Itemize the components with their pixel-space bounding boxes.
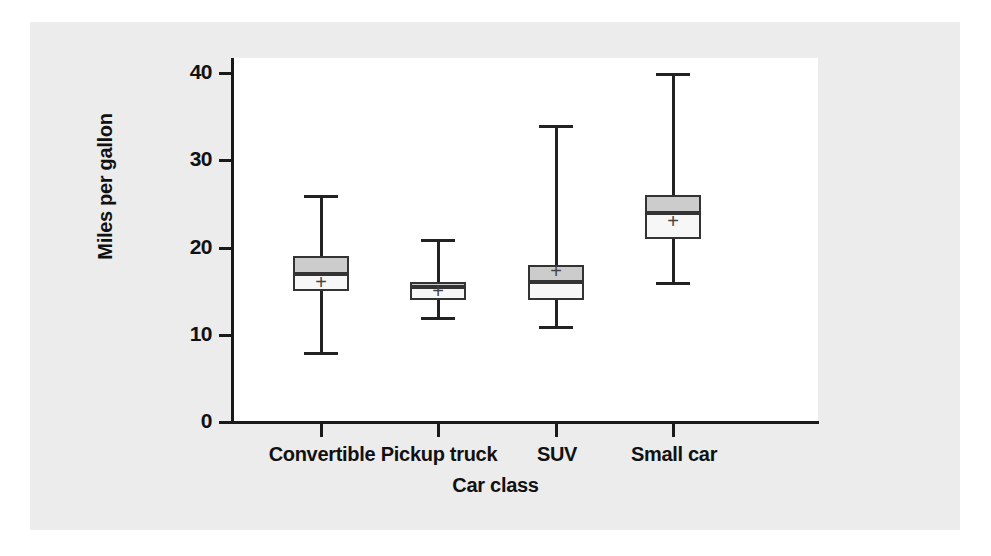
- box-lower-quartile: [528, 282, 584, 299]
- x-tick-pickup-truck: [437, 424, 440, 437]
- y-tick-label-10-wrap: 10: [150, 322, 212, 346]
- y-tick-label-20-wrap: 20: [150, 235, 212, 259]
- whisker-cap-lower: [304, 352, 338, 355]
- whisker-upper: [320, 195, 323, 256]
- y-tick-30: [219, 159, 231, 162]
- x-tick-suv: [555, 424, 558, 437]
- y-tick-label-40: 40: [170, 60, 212, 84]
- whisker-lower: [320, 291, 323, 352]
- whisker-cap-lower: [656, 282, 690, 285]
- whisker-lower: [672, 239, 675, 283]
- x-tick-small-car: [672, 424, 675, 437]
- whisker-cap-lower: [539, 326, 573, 329]
- whisker-cap-upper: [656, 73, 690, 76]
- x-axis-title: Car class: [0, 474, 991, 497]
- chart-page: 40 30 20 10 0 Miles per gallon Convertib…: [0, 0, 991, 556]
- y-tick-label-0: 0: [170, 409, 212, 433]
- whisker-lower: [437, 300, 440, 317]
- whisker-upper: [672, 73, 675, 195]
- y-tick-40: [219, 72, 231, 75]
- y-tick-0: [219, 421, 231, 424]
- y-tick-10: [219, 334, 231, 337]
- y-tick-label-30: 30: [170, 147, 212, 171]
- whisker-cap-upper: [304, 195, 338, 198]
- mean-marker: +: [546, 261, 566, 281]
- whisker-cap-lower: [421, 317, 455, 320]
- whisker-cap-upper: [539, 125, 573, 128]
- whisker-cap-upper: [421, 239, 455, 242]
- mean-marker: +: [663, 211, 683, 231]
- y-axis-title: Miles per gallon: [94, 62, 117, 312]
- y-tick-label-40-wrap: 40: [150, 60, 212, 84]
- y-axis-line: [231, 58, 234, 423]
- whisker-lower: [555, 300, 558, 326]
- mean-marker: +: [428, 281, 448, 301]
- y-tick-label-0-wrap: 0: [150, 409, 212, 433]
- y-tick-20: [219, 247, 231, 250]
- y-tick-label-10: 10: [170, 322, 212, 346]
- whisker-upper: [555, 125, 558, 265]
- x-tick-label-small-car: Small car: [584, 443, 764, 466]
- whisker-upper: [437, 239, 440, 283]
- x-tick-convertible: [320, 424, 323, 437]
- y-tick-label-20: 20: [170, 235, 212, 259]
- mean-marker: +: [311, 272, 331, 292]
- y-tick-label-30-wrap: 30: [150, 147, 212, 171]
